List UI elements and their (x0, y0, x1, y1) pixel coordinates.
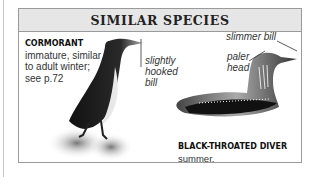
panel-title: SIMILAR SPECIES (90, 13, 229, 28)
diver-name: BLACK-THROATED DIVER (178, 142, 287, 151)
diver-name-suffix: summer, (178, 153, 214, 164)
page-edge-line (3, 0, 4, 177)
panel-header: SIMILAR SPECIES (19, 9, 301, 32)
slimmer-bill-pointer (277, 39, 301, 53)
slimmer-bill-label: slimmer bill (226, 31, 276, 42)
paler-head-pointer (247, 49, 267, 63)
cormorant-illustration-icon (39, 31, 149, 163)
hooked-bill-pointer (139, 39, 143, 69)
paler-head-label: paler head (227, 51, 249, 73)
similar-species-panel: SIMILAR SPECIES CORMORANT immature, simi… (18, 8, 302, 163)
diver-caption: BLACK-THROATED DIVER summer, similar to … (178, 140, 301, 163)
